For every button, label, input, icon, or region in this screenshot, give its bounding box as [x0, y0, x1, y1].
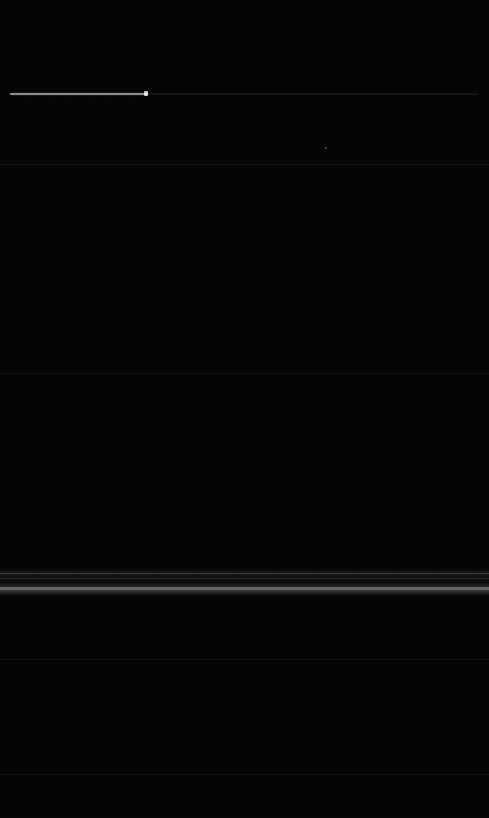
slider-fill	[10, 93, 148, 95]
selected-row[interactable]	[0, 568, 489, 596]
content-region-4	[0, 660, 489, 774]
content-region-2	[0, 374, 489, 570]
divider-bottom	[0, 774, 489, 775]
selected-row-line-mid	[0, 578, 489, 579]
brightness-slider[interactable]	[10, 90, 479, 98]
selected-row-line-top	[0, 573, 489, 574]
selected-row-line-bright	[0, 587, 489, 590]
footer-region	[0, 775, 489, 818]
divider-top	[0, 164, 489, 165]
header-region	[0, 0, 489, 164]
screen-root	[0, 0, 489, 818]
divider-lower	[0, 659, 489, 660]
status-dot	[325, 147, 327, 149]
divider-mid	[0, 373, 489, 374]
content-region-1	[0, 165, 489, 373]
slider-thumb[interactable]	[144, 91, 148, 96]
content-region-3	[0, 594, 489, 659]
